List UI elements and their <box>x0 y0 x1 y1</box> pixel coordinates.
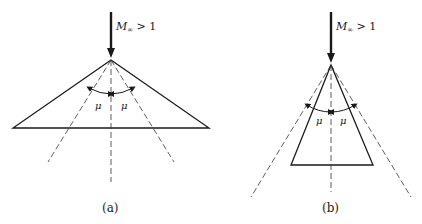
arrowhead-icon <box>327 53 335 63</box>
caption-b: (b) <box>322 201 339 215</box>
angle-arc-left-b <box>307 105 331 112</box>
cone-body-b <box>291 65 373 165</box>
mach-label-a: M∞ > 1 <box>115 20 156 34</box>
arrowhead-icon <box>107 48 115 58</box>
mach-label-b: M∞ > 1 <box>335 20 376 34</box>
mach-line-right-a <box>111 60 174 162</box>
mu-label-left-b: μ <box>316 115 323 126</box>
mu-label-left-a: μ <box>95 100 102 111</box>
mach-line-right-b <box>331 65 411 197</box>
mach-cone-diagram: M∞ > 1 μ μ (a) M∞ > 1 μ μ (b) <box>0 0 422 224</box>
caption-a: (a) <box>102 201 119 215</box>
panel-a: M∞ > 1 μ μ (a) <box>13 12 209 215</box>
mu-label-right-b: μ <box>340 115 347 126</box>
mach-line-left-a <box>48 60 111 162</box>
mach-line-left-b <box>251 65 331 197</box>
panel-b: M∞ > 1 μ μ (b) <box>251 12 411 215</box>
angle-arc-right-b <box>331 105 355 112</box>
mu-label-right-a: μ <box>121 100 128 111</box>
